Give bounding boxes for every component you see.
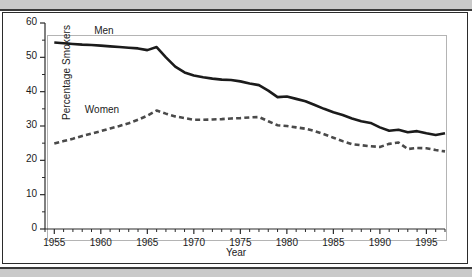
y-tick-label: 0 bbox=[9, 222, 37, 233]
y-tick-label: 10 bbox=[9, 188, 37, 199]
y-axis-title: Percentage Smokers bbox=[61, 0, 72, 148]
y-tick-label: 60 bbox=[9, 16, 37, 27]
y-tick-label: 30 bbox=[9, 119, 37, 130]
chart-plot-svg bbox=[3, 13, 469, 265]
y-tick-label: 20 bbox=[9, 153, 37, 164]
series-label-women: Women bbox=[85, 104, 119, 115]
y-tick-label: 40 bbox=[9, 85, 37, 96]
chart-figure: Percentage Smokers 010203040506019551960… bbox=[0, 0, 472, 277]
x-axis-title: Year bbox=[0, 247, 472, 258]
bottom-scan-band bbox=[0, 269, 472, 277]
figure-outer-frame: Percentage Smokers 010203040506019551960… bbox=[2, 12, 468, 264]
series-label-men: Men bbox=[94, 25, 113, 36]
series-line-men bbox=[54, 43, 445, 135]
y-tick-label: 50 bbox=[9, 50, 37, 61]
